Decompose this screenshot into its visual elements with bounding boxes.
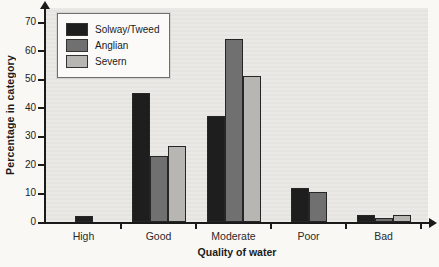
legend-swatch-anglian (66, 39, 88, 52)
y-tick-label-50: 50 (0, 73, 36, 85)
y-tick-mark-70 (38, 22, 44, 24)
bar-anglian-bad (375, 218, 393, 222)
x-tick-mark-2 (195, 224, 197, 229)
y-tick-mark-30 (38, 136, 44, 138)
water-quality-bar-chart: Percentage in category Quality of water … (0, 0, 439, 267)
legend-label-severn: Severn (95, 56, 127, 68)
y-tick-mark-40 (38, 107, 44, 109)
legend-label-solway-tweed: Solway/Tweed (95, 24, 159, 36)
x-label-high: High (49, 230, 119, 242)
y-axis-arrow-icon (40, 1, 50, 9)
x-label-bad: Bad (349, 230, 419, 242)
legend: Solway/TweedAnglianSevern (57, 13, 170, 78)
bar-solway-tweed-poor (291, 188, 309, 222)
y-tick-label-0: 0 (0, 216, 36, 228)
bar-anglian-poor (309, 192, 327, 222)
bar-solway-tweed-high (75, 216, 93, 222)
bar-severn-bad (393, 215, 411, 222)
legend-swatch-severn (66, 55, 88, 68)
x-tick-mark-5 (420, 224, 422, 229)
x-axis-arrow-icon (429, 218, 437, 228)
y-tick-mark-0 (38, 222, 44, 224)
bar-solway-tweed-moderate (207, 116, 225, 222)
x-tick-mark-1 (120, 224, 122, 229)
y-tick-label-30: 30 (0, 130, 36, 142)
bar-solway-tweed-bad (357, 215, 375, 222)
legend-item-severn: Severn (66, 55, 159, 68)
bar-solway-tweed-good (132, 93, 150, 222)
y-tick-label-20: 20 (0, 159, 36, 171)
bar-anglian-moderate (225, 39, 243, 222)
x-axis-title: Quality of water (46, 246, 428, 258)
y-tick-mark-50 (38, 79, 44, 81)
y-tick-label-40: 40 (0, 102, 36, 114)
x-tick-mark-4 (345, 224, 347, 229)
y-tick-mark-60 (38, 50, 44, 52)
bar-severn-moderate (243, 76, 261, 222)
x-label-good: Good (124, 230, 194, 242)
y-axis-line (44, 8, 46, 224)
legend-item-anglian: Anglian (66, 39, 159, 52)
y-tick-label-70: 70 (0, 16, 36, 28)
legend-label-anglian: Anglian (95, 40, 128, 52)
x-label-moderate: Moderate (199, 230, 269, 242)
legend-item-solway-tweed: Solway/Tweed (66, 23, 159, 36)
y-tick-label-10: 10 (0, 187, 36, 199)
bar-anglian-good (150, 156, 168, 222)
x-label-poor: Poor (274, 230, 344, 242)
y-tick-mark-10 (38, 193, 44, 195)
x-axis-line (44, 222, 430, 224)
y-tick-label-60: 60 (0, 45, 36, 57)
y-tick-mark-20 (38, 164, 44, 166)
x-tick-mark-3 (270, 224, 272, 229)
legend-swatch-solway-tweed (66, 23, 88, 36)
bar-severn-good (168, 146, 186, 222)
